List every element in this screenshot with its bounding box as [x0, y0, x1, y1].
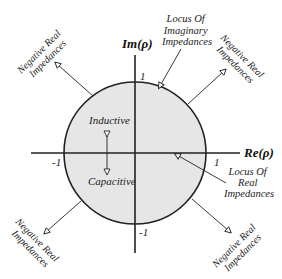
capacitive-label: Capacitive: [88, 175, 136, 187]
svg-text:Locus Of Imaginary: Locus Of Imaginary Impedances: [161, 13, 212, 47]
reflection-coefficient-diagram: Im(ρ) Re(ρ) 1 -1 -1 1 Inductive Capaciti…: [0, 0, 282, 279]
svg-text:Locus Of Real Impe: Locus Of Real Impedances: [223, 166, 274, 199]
tick-pos-real: 1: [214, 156, 220, 168]
negative-real-annotation-top-left: Negative Real Impedances: [14, 26, 93, 96]
tick-neg-imag: -1: [139, 226, 148, 238]
svg-text:Negative Real Impedances: Negative Real Impedances: [5, 215, 63, 273]
tick-pos-imag: 1: [140, 70, 146, 82]
real-axis-label: Re(ρ): [243, 145, 274, 160]
tick-neg-real: -1: [52, 156, 61, 168]
svg-text:Negative Real Impedances: Negative Real Impedances: [210, 31, 268, 89]
negative-real-annotation-bottom-left: Negative Real Impedances: [5, 201, 81, 273]
svg-text:Negative Real Impedances: Negative Real Impedances: [14, 26, 72, 84]
negative-real-annotation-bottom-right: Negative Real Impedances: [192, 199, 267, 278]
imag-axis-label: Im(ρ): [121, 36, 153, 51]
locus-imaginary-annotation: Locus Of Imaginary Impedances: [160, 13, 212, 86]
svg-text:Negative Real Impedances: Negative Real Impedances: [209, 220, 267, 278]
inductive-label: Inductive: [88, 114, 130, 126]
